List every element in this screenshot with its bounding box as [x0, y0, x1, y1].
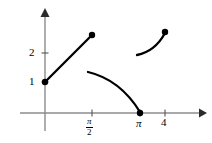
- x-axis-label-4: 4: [161, 117, 167, 128]
- y-axis-label-1: 1: [29, 76, 35, 87]
- endpoint-dot-origin-one: [42, 79, 48, 85]
- y-axis-label-2: 2: [29, 47, 35, 58]
- endpoint-dot-four-top: [162, 29, 168, 35]
- x-axis-label-pi-over-2: π 2: [86, 117, 93, 138]
- curve-segment-decreasing: [88, 72, 140, 112]
- curve-segment-increasing: [137, 33, 165, 55]
- x-axis-label-pi-over-2-denominator: 2: [86, 128, 93, 137]
- plot-canvas: [0, 0, 212, 143]
- curve-segment-linear: [45, 35, 92, 82]
- endpoint-dot-pi-zero: [137, 110, 143, 116]
- y-axis-arrowhead-icon: [41, 8, 50, 17]
- x-axis-label-pi-over-2-numerator: π: [86, 117, 93, 126]
- x-axis-arrowhead-icon: [199, 109, 207, 118]
- endpoint-dot-pi-over-2-top: [89, 32, 95, 38]
- x-axis-label-pi: π: [136, 118, 142, 129]
- piecewise-function-graph: 1 2 π 2 π 4: [0, 0, 212, 143]
